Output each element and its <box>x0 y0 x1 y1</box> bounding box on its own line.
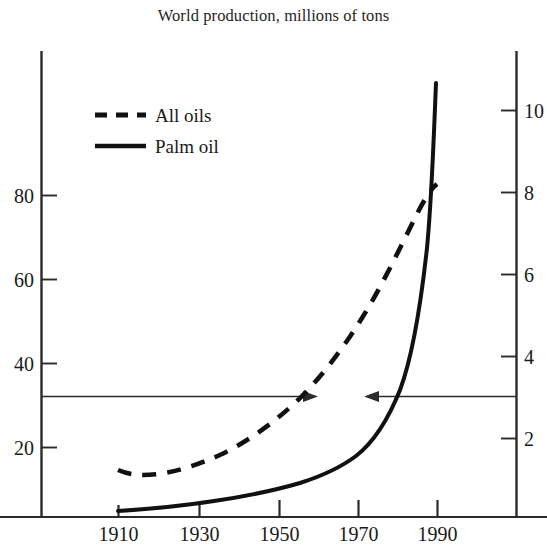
x-axis-label-1910: 1910 <box>78 524 159 544</box>
x-axis-label-1970: 1970 <box>318 524 399 544</box>
series-all-oils-line <box>118 184 437 475</box>
x-axis-label-1930: 1930 <box>159 524 240 544</box>
legend-label-all-oils: All oils <box>155 106 211 125</box>
legend-swatches <box>95 115 146 146</box>
legend-label-palm-oil: Palm oil <box>155 137 219 156</box>
right-axis-label-4: 4 <box>524 347 534 367</box>
left-axis-label-20: 20 <box>0 438 34 458</box>
right-arrow-head <box>364 391 379 402</box>
right-axis-label-10: 10 <box>524 101 544 121</box>
x-axis-label-1990: 1990 <box>397 524 478 544</box>
left-axis-ticks <box>42 196 58 448</box>
right-axis-label-6: 6 <box>524 265 534 285</box>
chart-figure: World production, millions of tons <box>0 0 547 551</box>
left-axis-label-60: 60 <box>0 270 34 290</box>
left-axis-arrow <box>42 391 318 402</box>
right-axis-label-2: 2 <box>524 429 534 449</box>
left-axis-label-40: 40 <box>0 354 34 374</box>
right-axis-arrow <box>364 391 516 402</box>
chart-plot-area <box>0 0 547 551</box>
right-axis-label-8: 8 <box>524 183 534 203</box>
right-axis-ticks <box>501 111 517 439</box>
x-axis-label-1950: 1950 <box>239 524 320 544</box>
left-axis-label-80: 80 <box>0 186 34 206</box>
